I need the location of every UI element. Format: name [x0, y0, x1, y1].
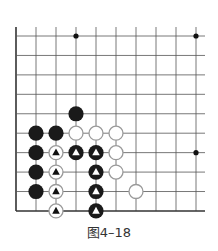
white-stone-icon	[109, 165, 123, 179]
black-stone	[88, 164, 103, 179]
star-point-icon	[193, 33, 198, 38]
white-stone-icon	[109, 146, 123, 160]
black-stone	[88, 184, 103, 199]
black-stone	[28, 184, 43, 199]
black-stone	[88, 203, 103, 218]
black-stone	[28, 145, 43, 160]
black-stone-icon	[28, 145, 43, 160]
white-stone-icon	[69, 126, 83, 140]
black-stone	[68, 145, 83, 160]
white-stone	[129, 185, 143, 199]
go-board	[0, 0, 218, 222]
stones	[28, 106, 143, 218]
star-point-icon	[193, 150, 198, 155]
white-stone	[49, 185, 63, 199]
white-stone	[109, 126, 123, 140]
white-stone-icon	[129, 185, 143, 199]
grid-lines	[16, 27, 205, 211]
white-stone-icon	[109, 126, 123, 140]
figure-caption: 图4–18	[0, 222, 218, 241]
white-stone	[49, 146, 63, 160]
black-stone-icon	[68, 106, 83, 121]
black-stone-icon	[28, 164, 43, 179]
black-stone-icon	[28, 184, 43, 199]
white-stone	[109, 165, 123, 179]
white-stone	[49, 204, 63, 218]
white-stone	[69, 126, 83, 140]
white-stone	[109, 146, 123, 160]
black-stone-icon	[28, 126, 43, 141]
black-stone	[28, 164, 43, 179]
black-stone	[28, 126, 43, 141]
black-stone	[48, 126, 63, 141]
black-stone-icon	[48, 126, 63, 141]
black-stone	[88, 145, 103, 160]
white-stone-icon	[89, 126, 103, 140]
black-stone	[68, 106, 83, 121]
white-stone	[89, 126, 103, 140]
white-stone	[49, 165, 63, 179]
star-point-icon	[73, 33, 78, 38]
